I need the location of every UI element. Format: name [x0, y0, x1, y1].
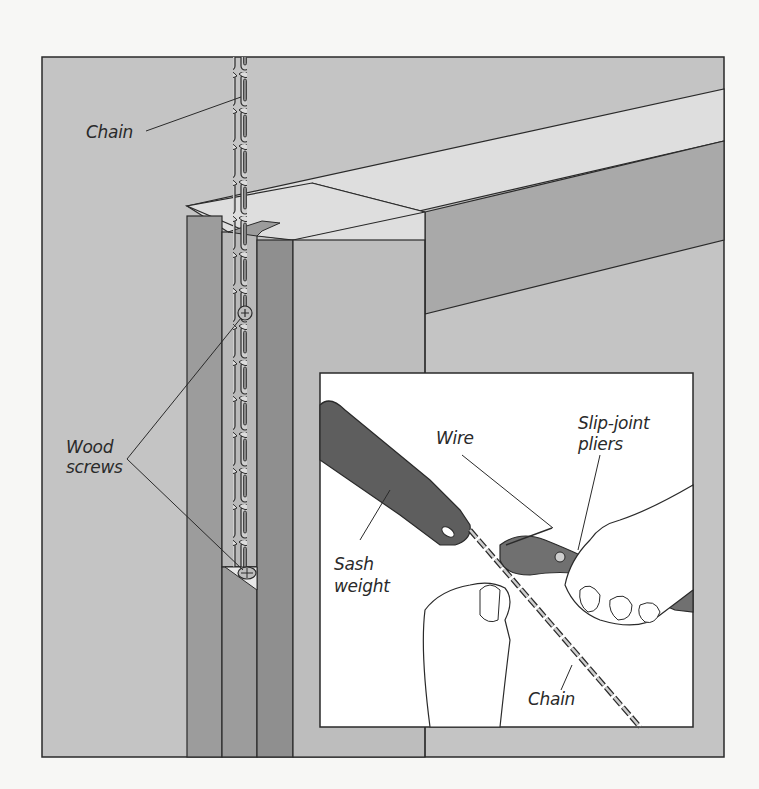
label-sash-weight-2: weight: [334, 576, 390, 596]
label-wire: Wire: [436, 428, 474, 448]
label-inset-chain: Chain: [528, 689, 575, 709]
label-wood-screws-1: Wood: [66, 437, 113, 457]
label-sash-weight-1: Sash: [334, 554, 374, 574]
jamb-side-dark: [187, 216, 222, 757]
window-frame-illustration: [0, 0, 759, 789]
jamb-front: [257, 240, 293, 757]
label-pliers-1: Slip-joint: [578, 413, 649, 433]
label-pliers-2: pliers: [578, 434, 623, 454]
label-chain: Chain: [86, 122, 133, 142]
label-wood-screws-2: screws: [66, 457, 123, 477]
wood-screw-upper: [238, 306, 252, 320]
